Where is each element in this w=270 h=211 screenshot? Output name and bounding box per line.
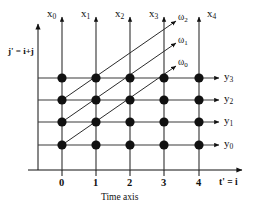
time-axis-ticks: [62, 170, 199, 176]
stream-label-y1: y1: [224, 115, 233, 127]
node: [57, 140, 66, 149]
node: [125, 140, 134, 149]
stream-label-y0: y0: [224, 138, 233, 150]
node: [194, 73, 203, 82]
node: [125, 73, 134, 82]
weight-diagonal-lines: [62, 21, 176, 145]
node: [91, 117, 100, 126]
node: [194, 117, 203, 126]
stream-label-omega0: ω0: [178, 58, 188, 69]
space-time-diagram: j' = i+j x0 x1 x2 x3 x4 ω2 ω1 ω0 y3 y2 y…: [0, 0, 270, 211]
tick-label-1: 1: [93, 178, 98, 189]
tick-label-4: 4: [196, 178, 201, 189]
tick-label-3: 3: [161, 178, 166, 189]
stream-label-y3: y3: [224, 71, 233, 83]
node: [159, 95, 168, 104]
output-row-lines: [38, 78, 219, 145]
node: [91, 95, 100, 104]
stream-label-omega1: ω1: [178, 36, 188, 47]
tick-label-2: 2: [127, 178, 132, 189]
stream-label-x3: x3: [149, 8, 158, 20]
stream-label-omega2: ω2: [178, 13, 188, 24]
time-axis-label: t' = i: [219, 178, 238, 188]
node: [91, 140, 100, 149]
stream-label-y2: y2: [224, 93, 233, 105]
tick-label-0: 0: [59, 178, 64, 189]
node: [194, 140, 203, 149]
figure-caption: Time axis: [101, 193, 138, 203]
node: [125, 117, 134, 126]
node: [159, 73, 168, 82]
node: [57, 95, 66, 104]
stream-label-x0: x0: [47, 8, 56, 20]
node: [91, 73, 100, 82]
stream-label-x4: x4: [207, 8, 216, 20]
j-axis-label: j' = i+j: [8, 47, 34, 56]
node: [194, 95, 203, 104]
node: [57, 117, 66, 126]
stream-label-x2: x2: [115, 8, 124, 20]
node: [159, 140, 168, 149]
node: [159, 117, 168, 126]
node: [125, 95, 134, 104]
diagonal-line-omega1: [62, 43, 176, 122]
diagonal-line-omega2: [62, 21, 176, 100]
node: [57, 73, 66, 82]
stream-label-x1: x1: [81, 8, 90, 20]
